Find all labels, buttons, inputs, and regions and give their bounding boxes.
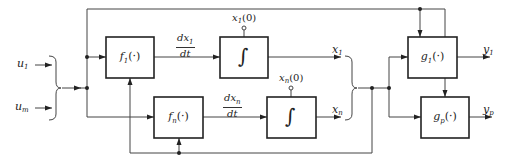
- dx1-dt-label: dx1dt: [176, 33, 195, 59]
- x1-init-terminal: [242, 26, 246, 30]
- f1-label: f1(·): [106, 51, 154, 65]
- junction-dot: [85, 55, 89, 59]
- xn-init-terminal: [289, 86, 293, 90]
- junction-dot: [177, 151, 181, 155]
- junction-dot: [85, 86, 89, 90]
- gp-label: gp(·): [421, 111, 469, 125]
- junction-dot: [418, 7, 422, 11]
- u1-label: u1: [17, 58, 29, 71]
- state-space-block-diagram: [0, 0, 514, 168]
- x1-init-label: x1(0): [232, 13, 256, 25]
- junction-dot: [370, 86, 374, 90]
- integral-1-icon: ∫: [238, 46, 248, 66]
- integral-n-icon: ∫: [285, 106, 295, 126]
- fn-label: fn(·): [154, 111, 203, 125]
- xn-init-label: xn(0): [279, 73, 303, 85]
- yp-label: yp: [483, 104, 494, 117]
- input-brace: [49, 56, 61, 120]
- y1-label: y1: [483, 44, 494, 57]
- um-label: um: [15, 101, 29, 114]
- junction-dot: [387, 86, 391, 90]
- state-brace: [345, 56, 357, 120]
- x1-label: x1: [332, 44, 343, 57]
- xn-label: xn: [332, 104, 343, 117]
- g1-label: g1(·): [408, 51, 457, 65]
- dxn-dt-label: dxndt: [223, 93, 242, 119]
